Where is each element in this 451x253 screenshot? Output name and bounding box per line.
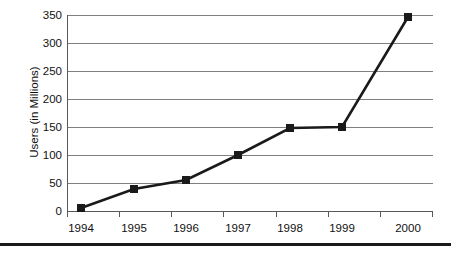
- x-tick-label: 2000: [378, 222, 438, 234]
- x-axis-tick-labels: 1994 1995 1996 1997 1998 1999 2000: [0, 0, 451, 253]
- x-tick-label: 1997: [208, 222, 268, 234]
- bottom-rule: [0, 243, 451, 246]
- x-tick-label: 1994: [51, 222, 111, 234]
- x-tick-label: 1998: [260, 222, 320, 234]
- x-tick-label: 1995: [104, 222, 164, 234]
- x-tick-label: 1996: [156, 222, 216, 234]
- x-tick-label: 1999: [312, 222, 372, 234]
- chart-figure: Users (in Millions) 350 300 250 200 150 …: [0, 0, 451, 253]
